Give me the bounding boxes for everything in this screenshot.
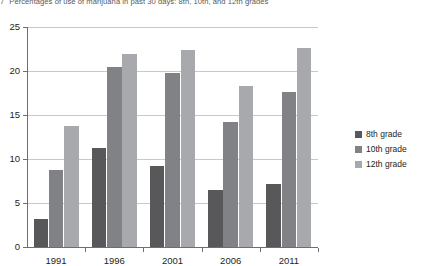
x-axis-label: 2011 [279, 256, 299, 266]
x-tick-mark [318, 248, 319, 252]
x-axis-line [27, 247, 318, 248]
legend-item: 8th grade [355, 127, 425, 142]
bar-2011-10th-grade [282, 92, 297, 247]
bar-2006-8th-grade [208, 190, 223, 247]
legend-swatch-icon [355, 131, 362, 138]
bar-1991-12th-grade [64, 126, 79, 247]
y-tick-mark [23, 159, 27, 160]
y-axis-label: 10 [9, 154, 20, 164]
figure-title-text: Percentages of use of marijuana in past … [9, 0, 268, 6]
y-axis-label: 15 [9, 110, 20, 120]
figure-title: 7Percentages of use of marijuana in past… [0, 0, 427, 8]
x-axis-label: 2006 [220, 256, 241, 266]
y-tick-mark [23, 247, 27, 248]
x-tick-mark [85, 248, 86, 252]
legend-swatch-icon [355, 161, 362, 168]
bar-2006-12th-grade [239, 86, 254, 247]
y-axis-label: 20 [9, 66, 20, 76]
x-axis-label: 2001 [162, 256, 183, 266]
bar-2001-10th-grade [165, 73, 180, 247]
bar-2011-12th-grade [297, 48, 312, 247]
bar-1996-12th-grade [122, 54, 137, 247]
y-tick-mark [23, 27, 27, 28]
y-tick-mark [23, 203, 27, 204]
bar-2001-8th-grade [150, 166, 165, 247]
legend-label: 8th grade [366, 130, 402, 139]
plot-area: 0510152025 19911996200120062011 [27, 27, 318, 248]
x-axis-label: 1996 [104, 256, 125, 266]
bar-1996-10th-grade [107, 67, 122, 247]
bar-2001-12th-grade [181, 50, 196, 247]
legend-item: 10th grade [355, 142, 425, 157]
y-axis-line [27, 27, 28, 248]
y-axis-label: 5 [15, 198, 20, 208]
x-axis-label: 1991 [46, 256, 67, 266]
legend-label: 12th grade [366, 160, 407, 169]
bar-2006-10th-grade [223, 122, 238, 247]
bar-1991-8th-grade [34, 219, 49, 247]
figure-number: 7 [0, 0, 4, 6]
y-axis-label: 0 [15, 242, 20, 252]
y-tick-mark [23, 115, 27, 116]
legend-item: 12th grade [355, 157, 425, 172]
y-tick-mark [23, 71, 27, 72]
gridline [28, 27, 318, 28]
x-tick-mark [143, 248, 144, 252]
chart-legend: 8th grade10th grade12th grade [355, 127, 425, 172]
bar-1991-10th-grade [49, 170, 64, 247]
bar-chart: 0510152025 19911996200120062011 8th grad… [0, 10, 427, 266]
bar-1996-8th-grade [92, 148, 107, 247]
legend-swatch-icon [355, 146, 362, 153]
bar-2011-8th-grade [266, 184, 281, 247]
y-axis-label: 25 [9, 22, 20, 32]
x-tick-mark [260, 248, 261, 252]
legend-label: 10th grade [366, 145, 407, 154]
x-tick-mark [202, 248, 203, 252]
